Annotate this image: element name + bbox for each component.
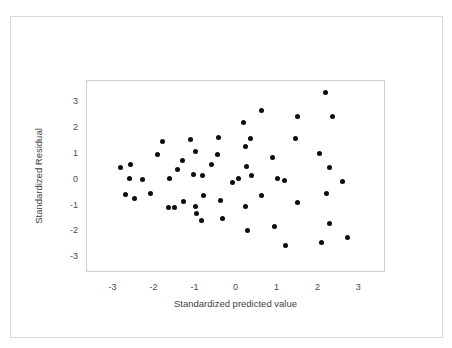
data-point [282, 178, 287, 183]
data-point [295, 114, 300, 119]
data-point [275, 176, 280, 181]
x-tick-label: -3 [109, 282, 117, 292]
data-point [230, 180, 235, 185]
y-tick-label: 3 [56, 96, 78, 106]
data-point [283, 243, 288, 248]
data-point [319, 240, 324, 245]
data-point [340, 179, 345, 184]
x-tick-label: 1 [274, 282, 279, 292]
y-tick-label: -2 [56, 225, 78, 235]
data-point [327, 221, 332, 226]
y-tick-label: 2 [56, 122, 78, 132]
data-point [128, 162, 133, 167]
data-point [166, 205, 171, 210]
y-tick-label: -1 [56, 200, 78, 210]
plot-panel [86, 80, 385, 272]
data-point [188, 137, 193, 142]
data-point [172, 205, 177, 210]
y-tick-label: 0 [56, 174, 78, 184]
data-point [248, 136, 253, 141]
data-point [123, 192, 128, 197]
data-point [245, 228, 250, 233]
data-point [199, 218, 204, 223]
data-point [148, 191, 153, 196]
data-point [243, 204, 248, 209]
data-point [259, 193, 264, 198]
data-point [218, 198, 223, 203]
x-tick-label: -1 [191, 282, 199, 292]
x-axis-title: Standardized predicted value [86, 298, 385, 309]
x-tick-label: 0 [233, 282, 238, 292]
x-tick-label: -2 [150, 282, 158, 292]
data-point [345, 235, 350, 240]
x-tick-label: 3 [356, 282, 361, 292]
data-point [200, 173, 205, 178]
data-point [140, 177, 145, 182]
data-point [220, 216, 225, 221]
data-point [243, 144, 248, 149]
data-point [272, 224, 277, 229]
y-tick-label: -3 [56, 251, 78, 261]
data-point [259, 108, 264, 113]
data-point [193, 204, 198, 209]
data-point [293, 136, 298, 141]
data-point [241, 120, 246, 125]
data-point [201, 193, 206, 198]
data-point [160, 139, 165, 144]
data-point [236, 176, 241, 181]
data-point [155, 152, 160, 157]
y-axis-title: Standardized Residual [33, 128, 44, 224]
data-point [209, 162, 214, 167]
scatter-plot-figure: 3210-1-2-3 -3-2-10123 Standardized predi… [0, 0, 452, 348]
y-tick-label: 1 [56, 148, 78, 158]
data-point [270, 155, 275, 160]
data-point [216, 135, 221, 140]
data-point [193, 149, 198, 154]
data-point [215, 152, 220, 157]
data-point [180, 158, 185, 163]
data-point [132, 196, 137, 201]
plot-data-area [87, 81, 384, 271]
data-point [194, 211, 199, 216]
data-point [127, 176, 132, 181]
data-point [167, 176, 172, 181]
data-point [181, 199, 186, 204]
data-point [249, 173, 254, 178]
data-point [323, 90, 328, 95]
data-point [324, 191, 329, 196]
x-tick-label: 2 [315, 282, 320, 292]
data-point [330, 114, 335, 119]
data-point [244, 164, 249, 169]
data-point [118, 165, 123, 170]
data-point [175, 167, 180, 172]
data-point [191, 172, 196, 177]
data-point [317, 151, 322, 156]
data-point [327, 165, 332, 170]
data-point [295, 200, 300, 205]
